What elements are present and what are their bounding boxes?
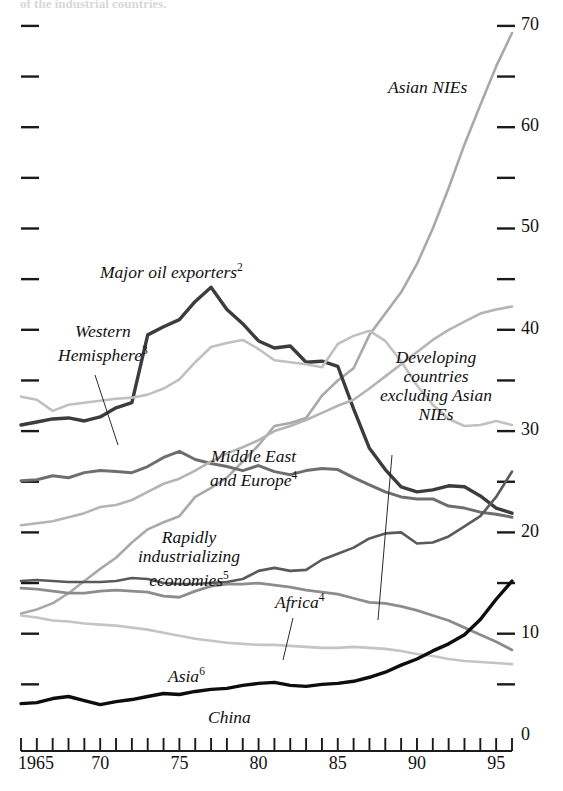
annotation-line: Africa xyxy=(275,592,319,612)
annotation-leader-lines xyxy=(95,375,392,660)
annotation-line: Asian NIEs xyxy=(388,77,467,97)
annotation-line: industrializing xyxy=(138,546,240,566)
x-axis-label-75: 75 xyxy=(147,753,211,774)
leader-line xyxy=(283,618,293,660)
x-axis-label-1965: 1965 xyxy=(4,753,68,774)
x-axis-label-70: 70 xyxy=(68,753,132,774)
annotation-line: NIEs xyxy=(418,404,453,424)
series-line-china xyxy=(21,581,512,705)
annotation-line: China xyxy=(208,707,251,727)
y-axis-label-70: 70 xyxy=(521,14,539,35)
y-axis-label-50: 50 xyxy=(521,216,539,237)
x-axis-label-80: 80 xyxy=(227,753,291,774)
y-axis-label-40: 40 xyxy=(521,318,539,339)
annotation-line: and Europe xyxy=(210,470,292,490)
annotation-footnote-marker: 4 xyxy=(319,591,325,603)
x-axis-label-85: 85 xyxy=(306,753,370,774)
annotation-developing-countries-excl-asian-nies: Developingcountriesexcluding AsianNIEs xyxy=(380,348,492,424)
annotation-line: Western xyxy=(75,321,131,341)
series-line-asia xyxy=(21,615,512,664)
annotation-line: economies xyxy=(149,570,223,590)
annotation-western-hemisphere: WesternHemisphere3 xyxy=(58,322,148,365)
chart-container: of the industrial countries. 70605040302… xyxy=(0,0,563,791)
annotation-footnote-marker: 4 xyxy=(292,469,298,481)
annotation-footnote-marker: 6 xyxy=(199,665,205,677)
annotation-asian-nies: Asian NIEs xyxy=(388,78,467,97)
left-axis-ticks xyxy=(21,26,39,684)
y-axis-label-30: 30 xyxy=(521,419,539,440)
annotation-middle-east-and-europe: Middle Eastand Europe4 xyxy=(210,447,297,490)
annotation-footnote-marker: 2 xyxy=(237,261,243,273)
y-axis-label-0: 0 xyxy=(521,724,530,745)
annotation-footnote-marker: 3 xyxy=(142,344,148,356)
annotation-line: Hemisphere xyxy=(58,345,142,365)
annotation-line: Developing xyxy=(396,347,477,367)
annotation-line: Asia xyxy=(168,666,199,686)
annotation-africa: Africa4 xyxy=(275,588,325,612)
annotation-line: Rapidly xyxy=(162,527,216,547)
annotation-line: excluding Asian xyxy=(380,385,492,405)
x-axis-label-95: 95 xyxy=(464,753,528,774)
annotation-asia: Asia6 xyxy=(168,662,205,686)
annotation-rapidly-industrializing-economies: Rapidlyindustrializingeconomies5 xyxy=(138,528,240,590)
x-axis xyxy=(21,738,512,751)
annotation-line: Major oil exporters xyxy=(100,262,237,282)
annotation-china: China xyxy=(208,708,251,727)
annotation-line: countries xyxy=(403,366,468,386)
x-axis-label-90: 90 xyxy=(385,753,449,774)
annotation-footnote-marker: 5 xyxy=(223,569,229,581)
leader-line xyxy=(378,455,392,620)
y-axis-label-60: 60 xyxy=(521,115,539,136)
series-line-africa xyxy=(21,583,512,650)
annotation-line: Middle East xyxy=(211,446,296,466)
annotation-major-oil-exporters: Major oil exporters2 xyxy=(100,258,243,282)
y-axis-label-20: 20 xyxy=(521,521,539,542)
y-axis-label-10: 10 xyxy=(521,622,539,643)
